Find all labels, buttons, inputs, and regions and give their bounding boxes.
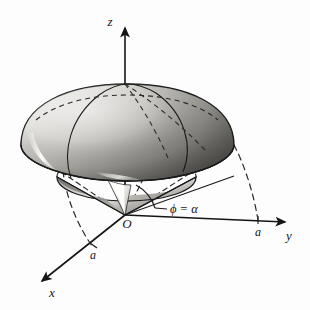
origin-label: O — [122, 216, 132, 231]
phi-angle-label: ϕ = α — [170, 202, 198, 216]
y-axis-tick-label: a — [255, 225, 261, 239]
x-axis-label: x — [48, 285, 55, 300]
x-axis-line — [42, 215, 125, 281]
solid-body-group — [21, 84, 234, 215]
z-axis-label: z — [106, 14, 112, 29]
phi-leader-line — [155, 208, 167, 209]
arc-to-y-axis-a — [234, 145, 258, 220]
y-axis-line — [125, 215, 285, 222]
x-axis-tick-label: a — [90, 248, 96, 262]
y-axis-label: y — [284, 228, 292, 243]
figure-container: z y x a a O ϕ = α — [0, 0, 310, 310]
figure-svg: z y x a a O ϕ = α — [0, 0, 310, 310]
